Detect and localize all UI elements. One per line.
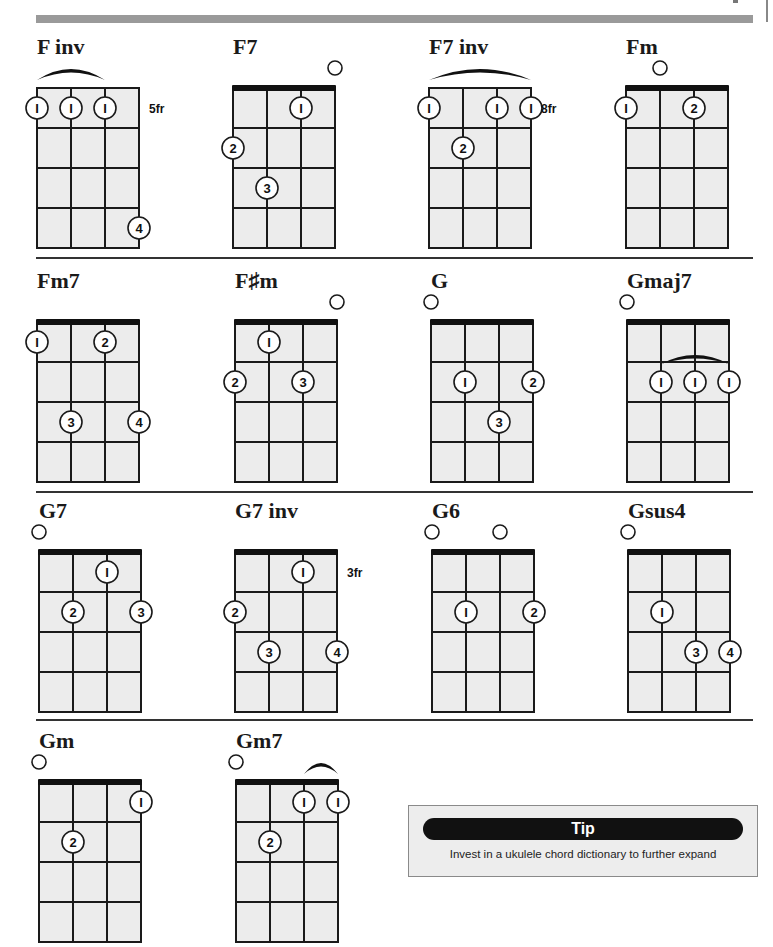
svg-text:2: 2 <box>231 605 238 620</box>
svg-text:4: 4 <box>135 415 143 430</box>
finger-marker: I <box>418 97 440 119</box>
finger-marker: 2 <box>683 97 705 119</box>
nut-bar <box>430 319 534 325</box>
finger-marker: 2 <box>452 137 474 159</box>
finger-marker: I <box>130 791 152 813</box>
nut-bar <box>38 779 142 785</box>
page-corner-mark <box>733 0 738 3</box>
finger-marker: I <box>290 97 312 119</box>
svg-text:2: 2 <box>69 835 76 850</box>
svg-text:4: 4 <box>726 645 734 660</box>
svg-text:3: 3 <box>265 645 272 660</box>
svg-text:I: I <box>301 565 305 580</box>
open-string-icon <box>229 755 243 769</box>
svg-text:3: 3 <box>263 181 270 196</box>
chord-diagram: Gsus4I34 <box>628 498 773 728</box>
finger-marker: 4 <box>128 217 150 239</box>
svg-text:I: I <box>727 375 731 390</box>
finger-marker: I <box>454 371 476 393</box>
open-string-icon <box>425 525 439 539</box>
svg-text:I: I <box>624 101 628 116</box>
tip-box: Tip Invest in a ukulele chord dictionary… <box>408 805 758 877</box>
nut-bar <box>38 549 142 555</box>
fretboard-grid: I23 <box>39 498 219 728</box>
finger-marker: 4 <box>326 641 348 663</box>
svg-text:2: 2 <box>101 335 108 350</box>
svg-text:4: 4 <box>135 221 143 236</box>
finger-marker: 2 <box>259 831 281 853</box>
fretboard-grid: I2 <box>39 728 219 947</box>
finger-marker: I <box>718 371 740 393</box>
svg-text:3: 3 <box>299 375 306 390</box>
barre-arc-icon <box>304 763 338 774</box>
finger-marker: I <box>26 331 48 353</box>
finger-marker: 2 <box>523 601 545 623</box>
finger-marker: I <box>60 97 82 119</box>
svg-text:I: I <box>693 375 697 390</box>
fretboard-grid: I23 <box>235 268 415 498</box>
svg-text:2: 2 <box>459 141 466 156</box>
svg-text:2: 2 <box>529 375 536 390</box>
chord-diagram: G6I2 <box>432 498 612 728</box>
nut-bar <box>234 319 338 325</box>
svg-text:I: I <box>302 795 306 810</box>
svg-text:I: I <box>529 101 533 116</box>
chord-diagram: FmI2 <box>626 34 773 264</box>
barre-arc-icon <box>429 69 531 80</box>
finger-marker: 2 <box>62 831 84 853</box>
svg-text:3: 3 <box>495 415 502 430</box>
chord-diagram: F invIII45fr <box>37 34 217 264</box>
finger-marker: I <box>94 97 116 119</box>
nut-bar <box>625 85 729 91</box>
open-string-icon <box>328 61 342 75</box>
chord-diagram: G7 invI2343fr <box>235 498 415 728</box>
finger-marker: I <box>96 561 118 583</box>
finger-marker: I <box>292 561 314 583</box>
fretboard-grid: I234 <box>37 268 217 498</box>
fretboard-grid: III28fr <box>429 34 609 264</box>
finger-marker: 2 <box>62 601 84 623</box>
finger-marker: 4 <box>128 411 150 433</box>
finger-marker: I <box>615 97 637 119</box>
finger-marker: I <box>258 331 280 353</box>
finger-marker: 2 <box>222 137 244 159</box>
finger-marker: 2 <box>522 371 544 393</box>
chord-diagram: GI23 <box>431 268 611 498</box>
svg-text:3: 3 <box>67 415 74 430</box>
open-string-icon <box>621 525 635 539</box>
open-string-icon <box>32 755 46 769</box>
fret-position-label: 5fr <box>149 102 165 116</box>
fret-position-label: 3fr <box>347 566 363 580</box>
svg-text:I: I <box>464 605 468 620</box>
fret-position-label: 8fr <box>541 102 557 116</box>
chord-diagram: Fm7I234 <box>37 268 217 498</box>
barre-arc-icon <box>37 69 105 80</box>
chord-diagram: F7 invIII28fr <box>429 34 609 264</box>
svg-text:3: 3 <box>692 645 699 660</box>
svg-text:I: I <box>660 605 664 620</box>
svg-text:3: 3 <box>137 605 144 620</box>
finger-marker: 3 <box>488 411 510 433</box>
header-rule <box>36 15 753 23</box>
finger-marker: 3 <box>685 641 707 663</box>
finger-marker: I <box>293 791 315 813</box>
tip-text: Invest in a ukulele chord dictionary to … <box>409 848 757 860</box>
svg-text:I: I <box>427 101 431 116</box>
fretboard-grid: I23 <box>233 34 413 264</box>
fretboard-grid: I23 <box>431 268 611 498</box>
open-string-icon <box>620 295 634 309</box>
fretboard-grid: I34 <box>628 498 773 728</box>
nut-bar <box>36 319 140 325</box>
finger-marker: 2 <box>224 601 246 623</box>
finger-marker: 3 <box>258 641 280 663</box>
nut-bar <box>234 549 338 555</box>
finger-marker: 3 <box>130 601 152 623</box>
open-string-icon <box>493 525 507 539</box>
nut-bar <box>431 549 535 555</box>
svg-text:2: 2 <box>266 835 273 850</box>
finger-marker: 4 <box>719 641 741 663</box>
svg-text:I: I <box>336 795 340 810</box>
finger-marker: I <box>651 601 673 623</box>
finger-marker: I <box>327 791 349 813</box>
finger-marker: 3 <box>292 371 314 393</box>
